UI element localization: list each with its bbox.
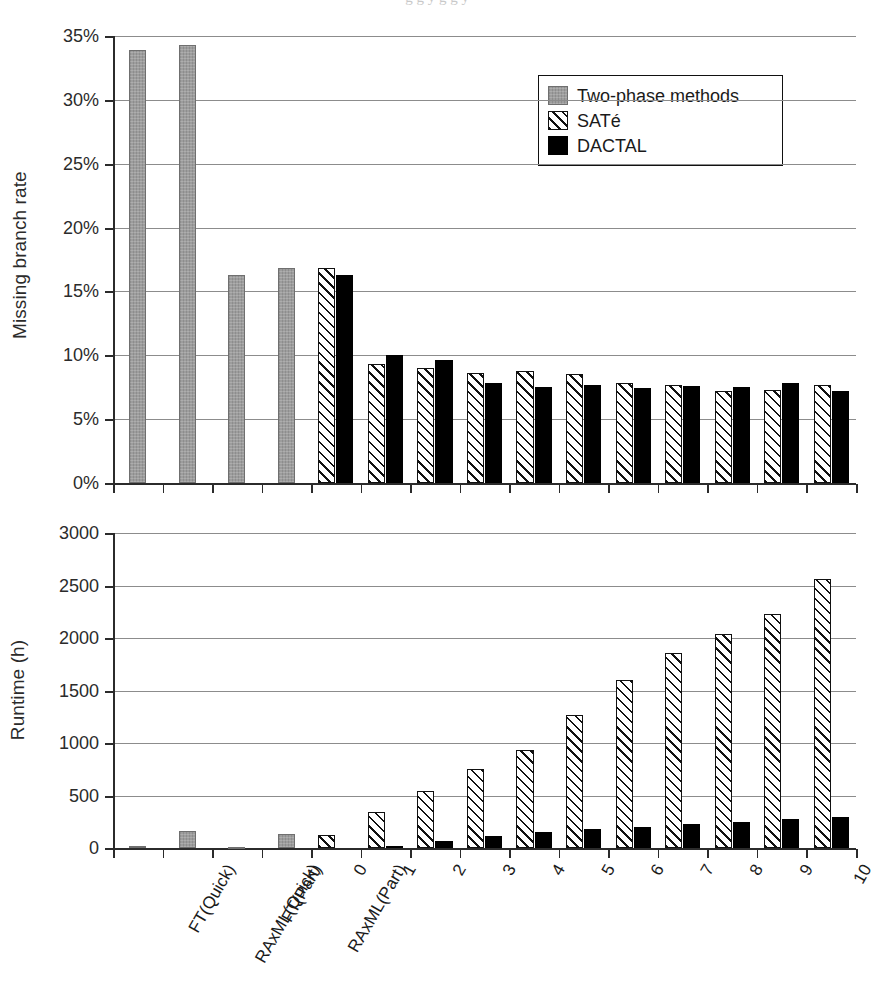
lower-gridline — [113, 533, 856, 534]
upper-bar-dactal — [485, 383, 502, 483]
x-tick-label-6: 6 — [647, 861, 669, 879]
upper-bar-dactal — [435, 360, 452, 483]
lower-bar-sate — [814, 579, 831, 848]
upper-y-tickmark — [105, 36, 113, 38]
upper-x-tickmark — [410, 484, 412, 493]
upper-y-tickmark — [105, 100, 113, 102]
figure-root: g g y g g y Two-phase methodsSATéDACTAL … — [0, 0, 874, 988]
upper-bar-sate — [467, 373, 484, 483]
lower-x-tickmark — [460, 849, 462, 858]
upper-y-tick-label: 35% — [15, 27, 99, 45]
x-tick-label-7: 7 — [696, 861, 718, 879]
lower-bar-twophase — [278, 834, 295, 848]
lower-bar-sate — [616, 680, 633, 848]
lower-y-tick-label: 3000 — [15, 524, 99, 542]
upper-y-tickmark — [105, 419, 113, 421]
lower-x-tickmark — [361, 849, 363, 858]
lower-x-tickmark — [113, 849, 115, 858]
lower-y-tickmark — [105, 691, 113, 693]
upper-bar-sate — [566, 374, 583, 483]
lower-x-tickmark — [212, 849, 214, 858]
upper-gridline — [113, 355, 856, 356]
lower-x-tickmark — [856, 849, 858, 858]
upper-bar-dactal — [733, 387, 750, 483]
upper-bar-dactal — [832, 391, 849, 483]
upper-x-tickmark — [757, 484, 759, 493]
lower-bar-sate — [566, 715, 583, 848]
x-tick-label-ftquick: FT(Quick) — [185, 861, 240, 936]
legend-row-sate: SATé — [548, 108, 772, 133]
lower-x-tickmark — [163, 849, 165, 858]
upper-y-axis-title: Missing branch rate — [9, 179, 31, 339]
lower-gridline — [113, 743, 856, 744]
upper-bar-sate — [318, 268, 335, 483]
upper-x-tickmark — [163, 484, 165, 493]
lower-y-tick-label: 2500 — [15, 577, 99, 595]
legend-row-twophase: Two-phase methods — [548, 83, 772, 108]
upper-x-tickmark — [262, 484, 264, 493]
upper-bar-sate — [715, 391, 732, 483]
lower-y-tick-label: 500 — [15, 787, 99, 805]
lower-gridline — [113, 691, 856, 692]
upper-y-tick-label: 30% — [15, 91, 99, 109]
lower-gridline — [113, 586, 856, 587]
upper-y-tickmark — [105, 483, 113, 485]
lower-x-tickmark — [707, 849, 709, 858]
upper-x-tickmark — [460, 484, 462, 493]
lower-x-tickmark — [262, 849, 264, 858]
upper-x-axis — [113, 483, 856, 485]
upper-bar-sate — [417, 368, 434, 483]
upper-bar-twophase — [228, 275, 245, 483]
lower-bar-sate — [368, 812, 385, 848]
legend-label: DACTAL — [577, 137, 647, 155]
upper-bar-sate — [616, 383, 633, 483]
legend-label: SATé — [577, 112, 621, 130]
lower-bar-dactal — [584, 829, 601, 848]
lower-bar-dactal — [683, 824, 700, 848]
upper-y-axis — [113, 36, 115, 484]
lower-bar-dactal — [435, 841, 452, 848]
lower-x-tickmark — [806, 849, 808, 858]
lower-x-tickmark — [658, 849, 660, 858]
x-tick-label-4: 4 — [548, 861, 570, 879]
x-tick-label-9: 9 — [795, 861, 817, 879]
upper-x-tickmark — [806, 484, 808, 493]
upper-y-tick-label: 10% — [15, 346, 99, 364]
upper-x-tickmark — [509, 484, 511, 493]
clipped-caption-text: g g y g g y — [405, 0, 469, 5]
lower-y-axis-title: Runtime (h) — [7, 610, 29, 770]
upper-gridline — [113, 36, 856, 37]
lower-x-tickmark — [410, 849, 412, 858]
upper-gridline — [113, 228, 856, 229]
lower-gridline — [113, 796, 856, 797]
upper-x-tickmark — [311, 484, 313, 493]
lower-y-tickmark — [105, 586, 113, 588]
clipped-caption-strip: g g y g g y — [0, 0, 874, 10]
lower-x-tickmark — [559, 849, 561, 858]
upper-bar-dactal — [634, 388, 651, 483]
upper-bar-dactal — [683, 386, 700, 483]
upper-x-tickmark — [212, 484, 214, 493]
x-tick-label-raxmlpart: RAxML(Part) — [344, 861, 410, 956]
lower-bar-sate — [318, 835, 335, 848]
lower-bar-dactal — [485, 836, 502, 848]
lower-x-axis — [113, 848, 856, 850]
upper-gridline — [113, 291, 856, 292]
chart-legend: Two-phase methodsSATéDACTAL — [538, 75, 783, 166]
upper-bar-sate — [368, 364, 385, 483]
upper-y-tickmark — [105, 164, 113, 166]
lower-bar-sate — [665, 653, 682, 848]
legend-swatch-twophase-icon — [548, 86, 568, 105]
upper-y-tickmark — [105, 355, 113, 357]
lower-bar-twophase — [228, 847, 245, 849]
x-tick-label-3: 3 — [498, 861, 520, 879]
upper-gridline — [113, 164, 856, 165]
lower-y-axis — [113, 533, 115, 849]
upper-bar-dactal — [782, 383, 799, 483]
x-tick-label-2: 2 — [449, 861, 471, 879]
legend-label: Two-phase methods — [577, 87, 739, 105]
upper-y-tick-label: 0% — [15, 474, 99, 492]
upper-y-tickmark — [105, 291, 113, 293]
lower-bar-twophase — [129, 846, 146, 848]
x-tick-label-10: 10 — [850, 861, 874, 887]
